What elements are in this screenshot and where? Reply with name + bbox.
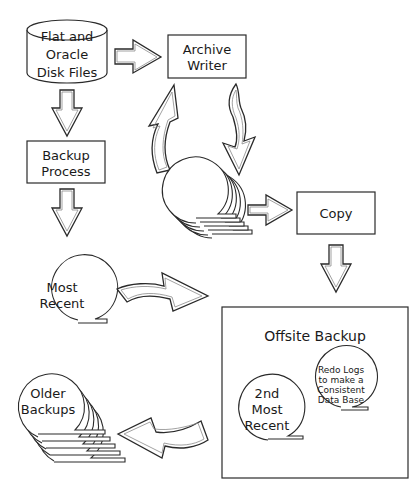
disk-files-label-3: Disk Files (37, 65, 98, 80)
backup-flow-diagram: Flat and Oracle Disk Files Archive Write… (0, 0, 414, 489)
disk-files-node: Flat and Oracle Disk Files (27, 20, 107, 83)
second-most-recent-label-1: 2nd (255, 386, 280, 401)
second-most-recent-label-3: Recent (245, 418, 290, 433)
arrow-tapes-to-archive (149, 85, 178, 173)
older-backups-label-2: Backups (21, 402, 76, 417)
arrow-disk-to-archive (115, 40, 161, 73)
copy-node: Copy (297, 192, 375, 234)
arrow-copy-to-offsite (321, 245, 351, 292)
most-recent-label-2: Recent (40, 296, 85, 311)
arrow-tapes-to-copy (248, 195, 292, 225)
second-most-recent-label-2: Most (251, 402, 282, 417)
arrow-disk-to-backup (52, 90, 82, 136)
redo-logs-label-3: Consistent (317, 385, 365, 395)
disk-files-label-1: Flat and (41, 29, 94, 44)
copy-label: Copy (320, 206, 353, 221)
arrow-backup-to-most-recent (52, 189, 82, 236)
archive-writer-label-2: Writer (187, 58, 227, 73)
most-recent-node: Most Recent (40, 255, 118, 323)
redo-logs-label-1: Redo Logs (318, 365, 365, 375)
most-recent-label-1: Most (46, 280, 77, 295)
arrow-most-recent-to-offsite (117, 273, 208, 311)
backup-process-node: Backup Process (27, 141, 105, 183)
redo-logs-label-4: Data Base (318, 395, 365, 405)
older-backups-node: Older Backups (18, 374, 125, 462)
redo-logs-label-2: to make a (319, 375, 364, 385)
arrow-archive-to-tapes (223, 84, 255, 175)
offsite-backup-node: Offsite Backup Redo Logs to make a Consi… (222, 307, 408, 478)
arrow-offsite-to-older (118, 418, 208, 458)
disk-files-label-2: Oracle (46, 47, 88, 62)
backup-process-label-2: Process (41, 164, 91, 179)
offsite-backup-title: Offsite Backup (264, 328, 366, 344)
archive-writer-node: Archive Writer (168, 35, 246, 78)
second-most-recent-reel: 2nd Most Recent (239, 374, 305, 440)
older-backups-label-1: Older (30, 386, 66, 401)
archive-writer-label-1: Archive (183, 42, 232, 57)
backup-process-label-1: Backup (42, 148, 90, 163)
